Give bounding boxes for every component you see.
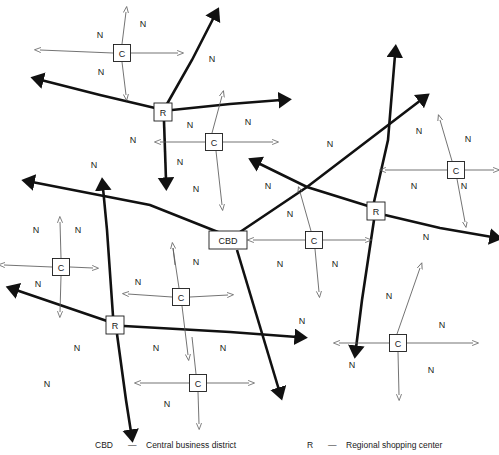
neighborhood-label: N xyxy=(461,181,468,191)
neighborhood-label: N xyxy=(428,365,435,375)
arterial-road-r-northwest-to-west xyxy=(41,80,155,108)
node-label-c-top: C xyxy=(119,49,126,59)
neighborhood-label: N xyxy=(164,399,171,409)
legend-dash-0: — xyxy=(128,440,137,450)
node-c-lower-right[interactable]: C xyxy=(390,335,407,352)
local-road-c-center-north xyxy=(300,192,311,231)
neighborhood-label: N xyxy=(327,139,334,149)
neighborhood-label: N xyxy=(439,320,446,330)
neighborhood-label: N xyxy=(193,184,200,194)
neighborhood-label: N xyxy=(74,343,81,353)
neighborhood-label: N xyxy=(465,134,472,144)
node-label-c-right: C xyxy=(453,166,460,176)
arterial-road-r-northwest-to-south xyxy=(164,121,166,180)
node-r-northwest[interactable]: R xyxy=(154,103,172,121)
legend-text-0: Central business district xyxy=(146,440,236,450)
urban-network-diagram: NNNNNNNNNNNNNNNNNNNNNNNNNNNNNNNNNNN CBDR… xyxy=(0,0,499,455)
local-road-c-top-south xyxy=(122,62,126,95)
node-c-right[interactable]: C xyxy=(448,162,465,179)
legend: CBD—Central business districtR—Regional … xyxy=(0,436,499,455)
node-r-southwest[interactable]: R xyxy=(106,316,124,334)
local-road-c-right-north xyxy=(440,120,452,161)
legend-dash-1: — xyxy=(328,440,337,450)
neighborhood-label: N xyxy=(153,343,160,353)
legend-text-1: Regional shopping center xyxy=(346,440,442,450)
local-road-c-upper-mid-north xyxy=(212,96,222,133)
neighborhood-label: N xyxy=(349,360,356,370)
node-cbd[interactable]: CBD xyxy=(209,231,247,249)
neighborhood-label: N xyxy=(75,225,82,235)
arterial-road-r-southwest-to-north xyxy=(103,188,113,316)
node-label-c-lower-right: C xyxy=(395,339,402,349)
neighborhood-label: N xyxy=(220,343,227,353)
neighborhood-label: N xyxy=(265,181,272,191)
node-label-c-mid-left: C xyxy=(178,293,185,303)
node-c-left[interactable]: C xyxy=(53,259,70,276)
neighborhood-label: N xyxy=(209,54,216,64)
arterial-road-r-northwest-to-northeast xyxy=(167,17,214,104)
node-label-c-upper-mid: C xyxy=(211,138,218,148)
arterial-road-r-southwest-to-east xyxy=(124,326,297,337)
local-road-c-bottom-north xyxy=(192,337,196,374)
local-road-c-center-south xyxy=(315,249,319,292)
local-road-c-left-west xyxy=(4,265,52,267)
arterial-road-r-southwest-to-south xyxy=(117,334,131,432)
neighborhood-label: N xyxy=(411,181,418,191)
neighborhood-label: N xyxy=(299,316,306,326)
node-c-mid-left[interactable]: C xyxy=(173,289,190,306)
neighborhood-label: N xyxy=(33,225,40,235)
neighborhood-label: N xyxy=(35,279,42,289)
neighborhood-label: N xyxy=(423,232,430,242)
arterial-road-r-east-to-southeast xyxy=(385,215,492,237)
node-label-cbd: CBD xyxy=(218,236,238,246)
neighborhood-label: N xyxy=(97,30,104,40)
legend-key-1: R xyxy=(307,440,313,450)
arterial-road-r-southwest-to-west xyxy=(16,290,107,321)
network-canvas: NNNNNNNNNNNNNNNNNNNNNNNNNNNNNNNNNNN CBDR… xyxy=(0,0,499,455)
neighborhood-label: N xyxy=(332,259,339,269)
neighborhood-label: N xyxy=(287,209,294,219)
local-road-c-left-east xyxy=(70,267,93,268)
local-road-c-left-north xyxy=(60,222,61,258)
node-r-east[interactable]: R xyxy=(367,202,385,220)
neighborhood-label: N xyxy=(187,120,194,130)
node-c-center[interactable]: C xyxy=(306,232,323,249)
node-label-r-southwest: R xyxy=(112,321,119,331)
neighborhood-label: N xyxy=(386,291,393,301)
node-label-c-left: C xyxy=(58,263,65,273)
legend-key-0: CBD xyxy=(95,440,113,450)
arterial-road-r-east-to-northwest xyxy=(258,163,368,206)
node-label-c-center: C xyxy=(311,236,318,246)
local-road-c-mid-left-east xyxy=(190,295,228,297)
arterial-road-layer xyxy=(16,17,492,432)
node-label-c-bottom: C xyxy=(195,379,202,389)
node-c-bottom[interactable]: C xyxy=(190,375,207,392)
neighborhood-label: N xyxy=(98,67,105,77)
neighborhood-label: N xyxy=(135,277,142,287)
node-c-upper-mid[interactable]: C xyxy=(206,134,223,151)
local-road-c-top-west xyxy=(40,50,113,53)
node-c-top[interactable]: C xyxy=(114,45,131,62)
neighborhood-label: N xyxy=(177,157,184,167)
neighborhood-label: N xyxy=(193,257,200,267)
arterial-road-r-northwest-to-east xyxy=(172,100,281,110)
neighborhood-label: N xyxy=(416,126,423,136)
local-road-layer xyxy=(4,12,494,424)
local-road-c-top-north xyxy=(122,12,126,44)
node-label-r-east: R xyxy=(373,207,380,217)
neighborhood-label: N xyxy=(91,160,98,170)
neighborhood-label: N xyxy=(277,259,284,269)
local-road-c-mid-left-west xyxy=(128,294,172,297)
arterial-road-r-east-to-south xyxy=(356,220,374,348)
local-road-c-lower-right-north xyxy=(397,268,420,334)
neighborhood-label: N xyxy=(44,379,51,389)
local-road-c-upper-mid-south xyxy=(216,151,222,205)
local-road-c-bottom-south xyxy=(198,392,199,424)
node-label-r-northwest: R xyxy=(160,108,167,118)
local-road-c-lower-right-south xyxy=(398,352,399,395)
neighborhood-label: N xyxy=(140,19,147,29)
neighborhood-label: N xyxy=(245,117,252,127)
neighborhood-label: N xyxy=(130,135,137,145)
arterial-road-cbd-to-southeast xyxy=(237,250,279,390)
arterial-road-cbd-to-northeast xyxy=(240,100,421,232)
